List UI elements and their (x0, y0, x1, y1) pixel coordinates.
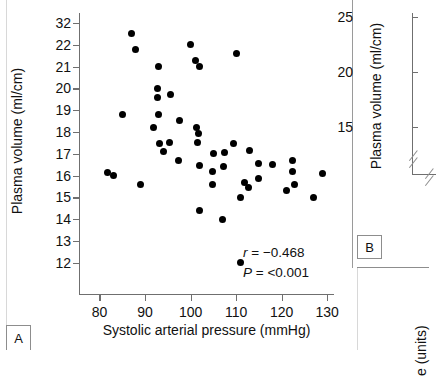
scatter-point (310, 194, 317, 201)
scatter-point (154, 94, 161, 101)
scatter-point (155, 111, 162, 118)
x-axis-tick (236, 295, 237, 301)
scatter-point (155, 63, 162, 70)
scatter-point (255, 160, 262, 167)
scatter-point (137, 181, 144, 188)
y-axis-title: Plasma volume (ml/cm) (9, 16, 25, 266)
y-axis-tick-label: 22 (55, 37, 71, 53)
x-axis-tick (282, 295, 283, 301)
scatter-point (269, 161, 276, 168)
scatter-point (195, 130, 202, 137)
right-panel-y-axis-tick (412, 72, 418, 73)
right-panel-y-axis-title: Plasma volume (ml/cm) (368, 11, 384, 181)
scatter-point (209, 181, 216, 188)
right-panel-y-axis-tick-label: 20 (337, 64, 353, 80)
y-axis-tick-label: 18 (55, 124, 71, 140)
y-axis-tick-label: 13 (55, 233, 71, 249)
x-axis-line (79, 294, 334, 295)
x-axis-tick-label: 100 (179, 304, 202, 320)
scatter-point (196, 207, 203, 214)
y-axis-tick-label: 15 (55, 189, 71, 205)
right-panel-y-axis-line (412, 13, 413, 175)
x-axis-tick-label: 80 (92, 304, 108, 320)
scatter-point (196, 63, 203, 70)
right-panel-y-axis-tick (412, 17, 418, 18)
scatter-point (319, 170, 326, 177)
y-axis-tick (73, 67, 79, 68)
x-axis-tick (145, 295, 146, 301)
scatter-point (233, 50, 240, 57)
x-axis-tick-label: 130 (315, 304, 338, 320)
x-axis-tick-label: 90 (137, 304, 153, 320)
y-axis-tick-label: 21 (55, 59, 71, 75)
right-panel-bottom-axis-title-fragment: e (units) (413, 276, 429, 376)
r-value: = −0.468 (248, 245, 305, 260)
scatter-point (289, 157, 296, 164)
scatter-point (187, 41, 194, 48)
right-panel-y-axis-tick (412, 127, 418, 128)
scatter-point (166, 139, 173, 146)
scatter-point (110, 172, 117, 179)
y-axis-tick (73, 88, 79, 89)
right-panel-y-axis-tick-label: 25 (337, 9, 353, 25)
right-panel-y-axis-tick-label: 15 (337, 119, 353, 135)
panel-a-scatter-plot: Plasma volume (ml/cm) 322221201918171615… (0, 0, 352, 350)
y-axis-line (79, 13, 80, 295)
x-axis-tick (191, 295, 192, 301)
y-axis-tick-label: 32 (55, 15, 71, 31)
scatter-point (291, 181, 298, 188)
scatter-point (220, 163, 227, 170)
y-axis-tick (73, 154, 79, 155)
scatter-point (175, 157, 182, 164)
panel-letter-a: A (6, 325, 31, 350)
y-axis-tick (73, 45, 79, 46)
scatter-point (194, 139, 201, 146)
scatter-point (237, 194, 244, 201)
y-axis-tick-label: 19 (55, 102, 71, 118)
scatter-point (245, 184, 252, 191)
y-axis-tick (73, 110, 79, 111)
y-axis-tick (73, 176, 79, 177)
scatter-point (283, 187, 290, 194)
y-axis-tick (73, 219, 79, 220)
scatter-point (176, 117, 183, 124)
p-symbol: P (243, 265, 252, 280)
scatter-point (156, 140, 163, 147)
x-axis-tick (327, 295, 328, 301)
y-axis-tick (73, 241, 79, 242)
y-axis-tick-label: 16 (55, 168, 71, 184)
p-value-line: P = <0.001 (243, 263, 309, 283)
scatter-point (150, 124, 157, 131)
scatter-point (128, 30, 135, 37)
y-axis-tick-label: 14 (55, 211, 71, 227)
statistics-annotation: r = −0.468 P = <0.001 (243, 243, 309, 282)
scatter-point (154, 85, 161, 92)
scatter-point (196, 162, 203, 169)
y-axis-tick (73, 23, 79, 24)
scatter-point (246, 147, 253, 154)
scatter-point (289, 168, 296, 175)
y-axis-tick (73, 197, 79, 198)
panel-right-cropped: 252015 Plasma volume (ml/cm) e (units) (353, 0, 429, 350)
x-axis-tick-label: 120 (270, 304, 293, 320)
y-axis-tick-label: 12 (55, 255, 71, 271)
p-value: = <0.001 (252, 265, 309, 280)
y-axis-tick (73, 132, 79, 133)
scatter-point (119, 111, 126, 118)
scatter-point (255, 175, 262, 182)
x-axis-tick-label: 110 (225, 304, 247, 320)
scatter-point (210, 150, 217, 157)
scatter-point (160, 148, 167, 155)
scatter-point (132, 46, 139, 53)
y-axis-tick-label: 20 (55, 80, 71, 96)
y-axis-tick (73, 263, 79, 264)
x-axis-title: Systolic arterial pressure (mmHg) (79, 322, 334, 338)
correlation-coefficient-line: r = −0.468 (243, 243, 309, 263)
scatter-point (219, 216, 226, 223)
scatter-point (221, 149, 228, 156)
panel-letter-b: B (357, 235, 382, 259)
scatter-point (230, 140, 237, 147)
scatter-point (167, 91, 174, 98)
x-axis-tick (99, 295, 100, 301)
